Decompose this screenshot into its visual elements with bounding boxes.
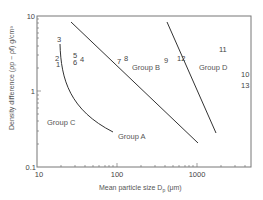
point-1: 1	[56, 60, 60, 69]
geldart-chart: 10 1 0.1 10 100 1000 Mean particle size …	[0, 0, 263, 200]
x-tick-100: 100	[111, 170, 124, 179]
point-11: 11	[219, 45, 227, 54]
x-tick-1000: 1000	[189, 170, 206, 179]
y-axis-ticks	[37, 19, 41, 144]
group-d-label: Group D	[199, 63, 228, 72]
y-axis-label: Density difference (ρp − ρf) g/cm³	[8, 26, 16, 130]
point-8: 8	[124, 54, 128, 63]
boundary-a-b	[71, 22, 198, 143]
point-12: 12	[177, 54, 185, 63]
x-axis-label: Mean particle size Dp (μm)	[99, 184, 182, 193]
point-6: 6	[73, 58, 77, 67]
x-axis-ticks	[61, 163, 245, 167]
x-tick-10: 10	[35, 170, 43, 179]
y-tick-1: 1	[31, 87, 35, 96]
point-3: 3	[57, 35, 61, 44]
y-tick-10: 10	[27, 12, 35, 21]
point-9: 9	[164, 56, 168, 65]
point-13: 13	[241, 81, 249, 90]
point-10: 10	[241, 70, 249, 79]
group-c-label: Group C	[47, 118, 76, 127]
group-b-label: Group B	[132, 63, 160, 72]
point-7: 7	[117, 57, 121, 66]
boundary-b-d	[167, 22, 216, 133]
group-a-label: Group A	[118, 132, 146, 141]
point-4: 4	[80, 55, 84, 64]
